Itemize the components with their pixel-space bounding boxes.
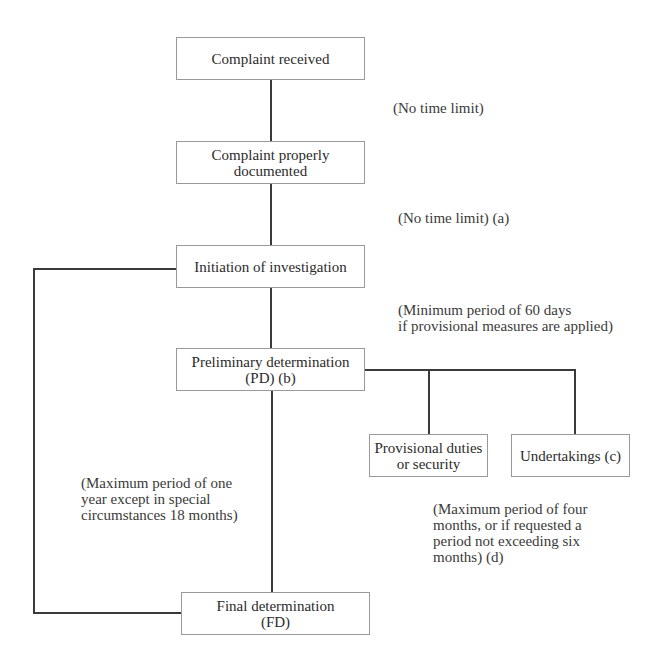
connector-initiation-left — [33, 268, 176, 270]
node-label-line1: Preliminary determination — [192, 354, 350, 370]
node-complaint-received: Complaint received — [176, 37, 365, 80]
connector-to-undertakings — [574, 369, 576, 434]
node-label: Undertakings (c) — [520, 448, 621, 464]
connector-documented-to-initiation — [270, 183, 272, 245]
node-preliminary-determination: Preliminary determination (PD) (b) — [176, 348, 365, 391]
node-label-line1: Final determination — [217, 598, 335, 614]
node-label-line2: documented — [234, 163, 307, 179]
note-maximum-one-year: (Maximum period of one year except in sp… — [81, 475, 238, 523]
node-complaint-documented: Complaint properly documented — [176, 141, 365, 184]
note-no-time-limit-a: (No time limit) (a) — [398, 210, 509, 226]
node-label-line2: or security — [397, 456, 461, 472]
note-no-time-limit: (No time limit) — [393, 100, 484, 116]
connector-left-vertical — [33, 268, 35, 614]
node-label-line2: (FD) — [261, 614, 290, 630]
node-initiation-of-investigation: Initiation of investigation — [176, 245, 365, 288]
note-maximum-four-months: (Maximum period of four months, or if re… — [433, 501, 588, 565]
node-final-determination: Final determination (FD) — [181, 592, 370, 635]
connector-final-left — [33, 612, 181, 614]
node-label: Initiation of investigation — [194, 259, 346, 275]
connector-preliminary-to-final — [271, 391, 273, 592]
node-label: Complaint received — [212, 51, 330, 67]
node-provisional-duties: Provisional duties or security — [369, 434, 488, 477]
note-minimum-period: (Minimum period of 60 days if provisiona… — [398, 302, 613, 334]
node-label-line2: (PD) (b) — [245, 370, 295, 386]
connector-initiation-to-preliminary — [270, 288, 272, 348]
flowchart-canvas: Complaint received Complaint properly do… — [0, 0, 665, 664]
node-undertakings: Undertakings (c) — [511, 434, 630, 477]
node-label-line1: Complaint properly — [212, 147, 330, 163]
connector-received-to-documented — [270, 79, 272, 141]
connector-to-provisional — [428, 369, 430, 434]
node-label-line1: Provisional duties — [375, 440, 483, 456]
connector-preliminary-right — [365, 369, 576, 371]
